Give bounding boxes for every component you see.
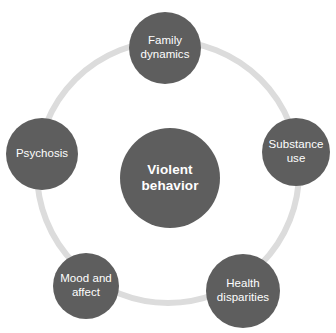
node-label-line1: Mood and: [60, 272, 112, 284]
node-label-line1: Family: [148, 34, 182, 46]
node-health-disparities[interactable]: Health disparities: [206, 254, 280, 328]
node-label-family-dynamics: Family dynamics: [137, 34, 194, 61]
node-label-line1: Psychosis: [16, 147, 68, 159]
cycle-diagram: Family dynamics Substance use Health dis…: [0, 0, 336, 333]
node-label-line2: use: [287, 152, 306, 164]
node-psychosis[interactable]: Psychosis: [6, 118, 78, 190]
node-violent-behavior[interactable]: Violent behavior: [120, 128, 220, 228]
node-label-line2: disparities: [217, 291, 269, 303]
node-family-dynamics[interactable]: Family dynamics: [129, 12, 201, 84]
node-label-substance-use: Substance use: [265, 138, 328, 165]
node-label-line1: Violent: [147, 162, 192, 177]
node-mood-and-affect[interactable]: Mood and affect: [53, 253, 119, 319]
node-label-mood-and-affect: Mood and affect: [56, 272, 116, 299]
node-label-psychosis: Psychosis: [12, 147, 72, 161]
node-label-line2: behavior: [141, 178, 198, 193]
node-label-line2: affect: [72, 286, 100, 298]
node-label-line2: dynamics: [141, 48, 190, 60]
node-label-health-disparities: Health disparities: [213, 277, 273, 304]
node-label-line1: Substance: [269, 138, 324, 150]
node-substance-use[interactable]: Substance use: [262, 118, 330, 186]
node-label-line1: Health: [226, 277, 260, 289]
node-label-violent-behavior: Violent behavior: [137, 162, 202, 194]
